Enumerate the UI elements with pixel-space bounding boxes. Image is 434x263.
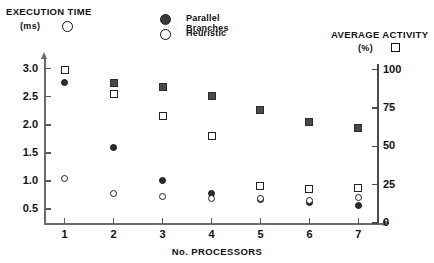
data-point-open-circle [355,194,362,201]
data-point-filled-square [305,118,313,126]
data-point-filled-circle [110,144,117,151]
data-point-filled-circle [355,202,362,209]
data-point-open-circle [61,175,68,182]
x-axis-tick [64,218,65,224]
y-axis-left-tick [45,96,51,97]
y-axis-left-tick [45,68,51,69]
open-circle-icon [62,21,73,32]
y-axis-right-tick [372,222,378,223]
x-axis-tick-label: 5 [251,228,269,240]
y-axis-right-tick-label: 75 [383,101,395,113]
data-point-filled-square [110,79,118,87]
data-point-open-square [61,66,69,74]
legend-item-label: Heuristic [186,28,226,38]
y-axis-right-tick-label: 100 [383,63,401,75]
left-axis-units: (ms) [20,21,40,31]
y-axis-left-arrow [41,52,47,59]
data-point-filled-square [159,83,167,91]
data-point-open-circle [110,190,117,197]
x-axis-line [44,223,384,225]
data-point-open-square [305,185,313,193]
data-point-open-circle [208,195,215,202]
x-axis-tick [113,218,114,224]
y-axis-left-tick-label: 3.0 [8,62,38,74]
data-point-filled-circle [61,79,68,86]
chart-canvas: EXECUTION TIME (ms) AVERAGE ACTIVITY (%)… [0,0,434,263]
x-axis-tick [260,218,261,224]
x-axis-tick [162,218,163,224]
y-axis-left-tick [45,208,51,209]
x-axis-tick-label: 4 [203,228,221,240]
x-axis-tick [211,218,212,224]
open-square-icon [391,43,400,52]
data-point-filled-square [208,92,216,100]
x-axis-tick-label: 3 [154,228,172,240]
right-axis-units: (%) [358,43,373,53]
y-axis-right-line [377,64,379,223]
data-point-open-square [256,182,264,190]
y-axis-right-tick-label: 25 [383,178,395,190]
data-point-open-square [208,132,216,140]
data-point-open-square [110,90,118,98]
y-axis-left-tick-label: 0.5 [8,202,38,214]
y-axis-left-tick-label: 2.5 [8,90,38,102]
y-axis-left-tick-label: 1.5 [8,146,38,158]
y-axis-right-tick-label: 50 [383,139,395,151]
y-axis-left-tick-label: 2.0 [8,118,38,130]
data-point-open-circle [159,193,166,200]
y-axis-left-line [44,58,46,225]
left-axis-title: EXECUTION TIME [6,6,92,17]
y-axis-left-tick [45,152,51,153]
data-point-open-circle [306,197,313,204]
right-axis-title: AVERAGE ACTIVITY [331,29,428,40]
x-axis-tick [358,218,359,224]
x-axis-tick [309,218,310,224]
y-axis-left-tick [45,124,51,125]
y-axis-right-tick [372,69,378,70]
data-point-filled-square [354,124,362,132]
y-axis-right-tick [372,184,378,185]
x-axis-label: No. PROCESSORS [0,246,434,257]
y-axis-right-tick [372,107,378,108]
data-point-open-square [159,112,167,120]
open-circle-icon [160,29,171,40]
y-axis-left-tick-label: 1.0 [8,174,38,186]
filled-circle-icon [160,14,171,25]
data-point-filled-square [256,106,264,114]
x-axis-tick-label: 7 [349,228,367,240]
y-axis-left-tick [45,180,51,181]
data-point-open-square [354,184,362,192]
y-axis-right-tick-label: 0 [383,216,389,228]
x-axis-tick-label: 6 [300,228,318,240]
data-point-filled-circle [159,177,166,184]
y-axis-right-tick [372,146,378,147]
x-axis-tick-label: 2 [105,228,123,240]
x-axis-tick-label: 1 [56,228,74,240]
